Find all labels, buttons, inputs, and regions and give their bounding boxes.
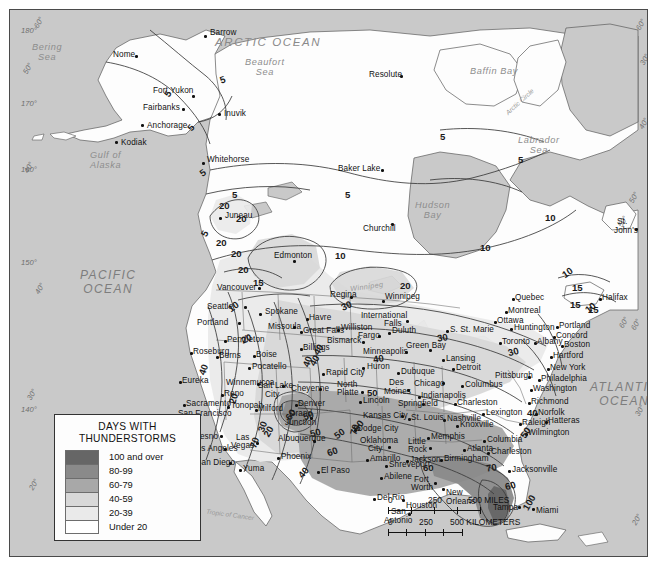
city-dot — [442, 359, 445, 362]
city-dot — [359, 401, 362, 404]
legend-label: 60-79 — [109, 480, 133, 490]
city-dot — [452, 368, 455, 371]
city-dot — [510, 328, 513, 331]
city-dot — [525, 433, 528, 436]
city-dot — [545, 421, 548, 424]
city-dot — [494, 321, 497, 324]
city-dot — [556, 326, 559, 329]
city-dot — [427, 437, 430, 440]
city-dot — [218, 113, 221, 116]
city-dot — [528, 376, 531, 379]
legend-label: 40-59 — [109, 494, 133, 504]
city-dot — [401, 415, 404, 418]
city-dot — [635, 228, 638, 231]
legend-row[interactable]: 40-59 — [65, 492, 200, 506]
city-dot — [319, 388, 322, 391]
city-dot — [382, 300, 385, 303]
legend-label: Under 20 — [109, 522, 147, 532]
city-dot — [422, 403, 425, 406]
legend-row[interactable]: 60-79 — [65, 478, 200, 492]
legend-title: DAYS WITH THUNDERSTORMS — [55, 415, 200, 445]
legend-row[interactable]: 100 and over — [65, 450, 200, 464]
city-dot — [115, 141, 118, 144]
city-dot — [179, 381, 182, 384]
city-dot — [190, 352, 193, 355]
city-dot — [407, 389, 410, 392]
city-dot — [400, 75, 403, 78]
city-dot — [528, 402, 531, 405]
city-dot — [182, 108, 185, 111]
city-dot — [446, 330, 449, 333]
city-dot — [378, 335, 381, 338]
city-dot — [300, 348, 303, 351]
city-dot — [388, 446, 391, 449]
map-legend[interactable]: DAYS WITH THUNDERSTORMS 100 and over80-9… — [54, 414, 201, 541]
km-bar — [388, 529, 553, 536]
miles-bar — [388, 507, 553, 514]
legend-label: 80-99 — [109, 466, 133, 476]
miles-tick-500: 500 MILES — [468, 495, 509, 505]
city-dot — [257, 383, 260, 386]
city-dot — [256, 442, 259, 445]
city-dot — [418, 396, 421, 399]
city-dot — [135, 55, 138, 58]
city-dot — [224, 340, 227, 343]
legend-label: 20-39 — [109, 508, 133, 518]
city-dot — [406, 460, 409, 463]
city-dot — [259, 313, 262, 316]
city-dot — [530, 389, 533, 392]
legend-row[interactable]: 80-99 — [65, 464, 200, 478]
legend-swatch — [65, 492, 99, 506]
city-dot — [442, 488, 445, 491]
city-dot — [253, 355, 256, 358]
city-dot — [224, 448, 227, 451]
city-dot — [350, 296, 353, 299]
city-dot — [454, 403, 457, 406]
city-dot — [219, 217, 222, 220]
city-dot — [380, 477, 383, 480]
legend-swatch — [65, 478, 99, 492]
city-dot — [406, 320, 409, 323]
legend-swatch — [65, 464, 99, 478]
city-dot — [483, 440, 486, 443]
city-dot — [229, 462, 232, 465]
km-scale-numbers: 0 250 500 KILOMETERS — [388, 517, 553, 528]
legend-row[interactable]: Under 20 — [65, 520, 200, 534]
city-dot — [362, 367, 365, 370]
city-dot — [361, 391, 364, 394]
city-dot — [300, 331, 303, 334]
km-tick-500: 500 KILOMETERS — [450, 517, 520, 527]
miles-tick-0: 0 — [388, 495, 393, 505]
city-dot — [408, 418, 411, 421]
city-dot — [385, 465, 388, 468]
legend-row[interactable]: 20-39 — [65, 506, 200, 520]
city-dot — [183, 404, 186, 407]
legend-label: 100 and over — [109, 452, 163, 462]
city-dot — [512, 298, 515, 301]
city-dot — [337, 329, 340, 332]
thunderstorm-map-page: BeringSeaGulf ofAlaskaPACIFICOCEANARCTIC… — [0, 0, 655, 569]
city-dot — [227, 406, 230, 409]
city-dot — [487, 452, 490, 455]
city-dot — [282, 385, 285, 388]
legend-swatch — [65, 520, 99, 534]
city-dot — [258, 287, 261, 290]
city-dot — [295, 404, 298, 407]
city-dot — [221, 394, 224, 397]
city-dot — [538, 379, 541, 382]
city-dot — [391, 223, 394, 226]
city-dot — [440, 459, 443, 462]
city-dot — [482, 413, 485, 416]
city-dot — [192, 95, 195, 98]
city-dot — [561, 345, 564, 348]
city-dot — [238, 322, 241, 325]
city-dot — [293, 326, 296, 329]
km-tick-0: 0 — [388, 517, 393, 527]
city-dot — [202, 162, 205, 165]
city-dot — [434, 482, 437, 485]
map-frame[interactable]: BeringSeaGulf ofAlaskaPACIFICOCEANARCTIC… — [9, 9, 648, 557]
city-dot — [519, 423, 522, 426]
city-dot — [293, 260, 296, 263]
city-dot — [362, 341, 365, 344]
city-dot — [310, 417, 313, 420]
